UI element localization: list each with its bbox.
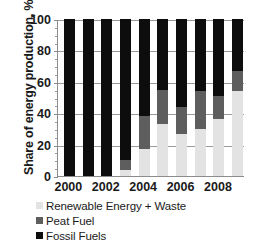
bar-2009 <box>232 19 243 176</box>
bar-segment-renewable <box>157 124 168 176</box>
x-tick-label: 2000 <box>48 180 88 194</box>
bar-series-group <box>58 20 244 176</box>
bar-segment-peat <box>120 160 131 169</box>
bar-segment-fossil <box>213 19 224 96</box>
bar-segment-fossil <box>120 19 131 160</box>
bar-segment-renewable <box>176 134 187 176</box>
x-tick-label: 2004 <box>123 180 163 194</box>
y-tick-label: 60 <box>17 76 51 90</box>
legend-label: Fossil Fuels <box>46 230 106 242</box>
bar-2003 <box>120 19 131 176</box>
legend-swatch-icon <box>36 202 43 209</box>
y-tick-major <box>54 177 58 178</box>
bar-segment-peat <box>232 71 243 91</box>
y-tick-label: 0 <box>17 170 51 184</box>
bar-segment-fossil <box>83 19 94 176</box>
bar-segment-renewable <box>139 149 150 176</box>
legend-item: Fossil Fuels <box>36 228 262 243</box>
bar-2001 <box>83 19 94 176</box>
bar-segment-renewable <box>213 119 224 176</box>
bar-segment-peat <box>139 116 150 149</box>
x-tick-label: 2008 <box>198 180 238 194</box>
bar-2002 <box>101 19 112 176</box>
legend-swatch-icon <box>36 232 43 239</box>
bar-segment-renewable <box>232 91 243 176</box>
bar-segment-fossil <box>176 19 187 107</box>
chart-legend: Renewable Energy + WastePeat FuelFossil … <box>36 198 262 243</box>
bar-segment-fossil <box>195 19 206 91</box>
bar-segment-peat <box>176 107 187 134</box>
bar-segment-fossil <box>64 19 75 176</box>
legend-label: Peat Fuel <box>46 215 94 227</box>
bar-segment-renewable <box>195 129 206 176</box>
bar-2008 <box>213 19 224 176</box>
x-tick-label: 2002 <box>86 180 126 194</box>
bar-segment-fossil <box>232 19 243 71</box>
y-tick-label: 40 <box>17 107 51 121</box>
bar-segment-fossil <box>101 19 112 176</box>
bar-segment-fossil <box>139 19 150 116</box>
legend-item: Renewable Energy + Waste <box>36 198 262 213</box>
legend-swatch-icon <box>36 217 43 224</box>
y-tick-label: 80 <box>17 44 51 58</box>
x-tick-label: 2006 <box>161 180 201 194</box>
bar-2000 <box>64 19 75 176</box>
bar-segment-renewable <box>120 170 131 176</box>
plot-area <box>57 20 244 177</box>
chart-figure: Share of energy production, % 0204060801… <box>0 0 264 249</box>
bar-segment-peat <box>157 90 168 125</box>
bar-segment-peat <box>195 91 206 129</box>
bar-2007 <box>195 19 206 176</box>
legend-label: Renewable Energy + Waste <box>46 200 186 212</box>
bar-2005 <box>157 19 168 176</box>
bar-segment-fossil <box>157 19 168 90</box>
legend-item: Peat Fuel <box>36 213 262 228</box>
y-tick-label: 20 <box>17 139 51 153</box>
bar-2004 <box>139 19 150 176</box>
bar-2006 <box>176 19 187 176</box>
bar-segment-peat <box>213 96 224 120</box>
y-tick-label: 100 <box>17 13 51 27</box>
